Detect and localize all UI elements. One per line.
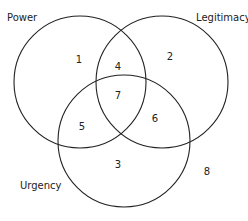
region-4: 4 [115, 62, 121, 72]
set-label-urgency: Urgency [20, 181, 62, 191]
venn-diagram: Power Legitimacy Urgency 1 2 3 4 5 6 7 8 [0, 0, 248, 221]
region-7: 7 [115, 91, 121, 101]
circle-legitimacy [96, 16, 228, 148]
region-5: 5 [79, 122, 85, 132]
region-3: 3 [115, 160, 121, 170]
region-2: 2 [167, 52, 173, 62]
set-label-power: Power [7, 13, 37, 23]
set-label-legitimacy: Legitimacy [196, 13, 248, 23]
region-1: 1 [76, 55, 82, 65]
region-6: 6 [152, 114, 158, 124]
region-8: 8 [204, 167, 210, 177]
circle-urgency [58, 75, 190, 207]
